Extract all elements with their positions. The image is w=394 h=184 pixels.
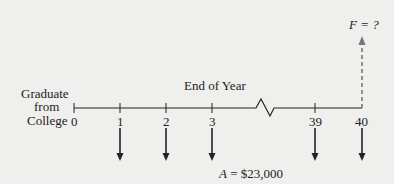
future-value-arrow [359,36,366,108]
tick-label-3: 3 [209,115,216,129]
payment-arrows [117,128,366,161]
label-college: College [27,114,67,128]
tick-label-0: 0 [71,115,78,129]
label-from: from [34,100,59,114]
tick-label-1: 1 [117,115,124,129]
future-value-label: F = ? [349,18,379,32]
axis-title: End of Year [184,79,246,93]
tick-label-39: 39 [309,115,322,129]
annuity-label: A = $23,000 [219,167,283,181]
annuity-value: = $23,000 [230,166,283,181]
tick-label-2: 2 [163,115,170,129]
tick-label-40: 40 [355,115,368,129]
annuity-variable: A [219,166,227,181]
